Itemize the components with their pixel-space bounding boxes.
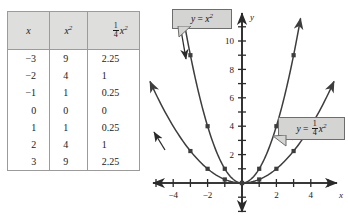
leader-line-quarter-left [154, 132, 165, 150]
callout2-numerator: 1 [312, 120, 318, 128]
callout2-exponent: 2 [323, 122, 327, 130]
callout1-tail [176, 26, 194, 38]
table-row: −110.25 [8, 84, 140, 101]
header-quarter-exponent: 2 [124, 24, 128, 32]
callout2-denominator: 4 [312, 128, 318, 137]
y-axis-tick-labels: 246810 [225, 36, 235, 160]
data-point [292, 53, 296, 57]
table-header: x x2 1 4 x2 [8, 12, 140, 50]
callout2-fraction: 1 4 [312, 120, 318, 137]
table-row: 241 [8, 136, 140, 153]
cell-quarter_x2: 0.25 [87, 119, 139, 136]
data-point [274, 167, 278, 171]
header-fraction-numerator: 1 [113, 22, 119, 30]
callout-leader-lines [154, 30, 293, 150]
table-row: 000 [8, 102, 140, 119]
header-x-label: x [26, 25, 30, 36]
y-axis-label: y [249, 12, 254, 22]
cell-x: −3 [8, 50, 50, 68]
y-tick-label: 8 [230, 65, 235, 75]
cell-x: 3 [8, 153, 50, 171]
values-table-container: x x2 1 4 x2 −392.25−241−110.25000110.252… [7, 11, 140, 171]
y-tick-label: 2 [230, 150, 235, 160]
curve-1-left-branch [150, 81, 242, 183]
column-header-x-squared: x2 [50, 12, 88, 50]
data-point [257, 177, 261, 181]
callout2-tail [272, 135, 288, 148]
cell-quarter_x2: 0 [87, 102, 139, 119]
cell-x2: 4 [50, 136, 88, 153]
curve-0-right-branch [242, 18, 301, 183]
callout1-lhs: y [191, 14, 195, 24]
callout2-lhs: y [296, 124, 300, 134]
x-tick-label: −4 [168, 190, 178, 200]
y-tick-label: 10 [225, 36, 235, 46]
data-point [223, 177, 227, 181]
cell-x: −2 [8, 67, 50, 84]
table-header-row: x x2 1 4 x2 [8, 12, 140, 50]
cell-quarter_x2: 2.25 [87, 153, 139, 171]
cell-x: 0 [8, 102, 50, 119]
cell-x2: 1 [50, 119, 88, 136]
x-axis-label: x [338, 190, 343, 200]
x-tick-label: 4 [309, 190, 314, 200]
figure-root: x x2 1 4 x2 −392.25−241−110.25000110.252… [0, 0, 348, 222]
values-table: x x2 1 4 x2 −392.25−241−110.25000110.252… [7, 11, 140, 171]
cell-quarter_x2: 1 [87, 136, 139, 153]
data-point [206, 124, 210, 128]
header-x2-exponent: 2 [69, 24, 73, 32]
x-axis-tick-labels: −4−224 [168, 190, 313, 200]
header-fraction: 1 4 [113, 22, 119, 39]
x-tick-label: 2 [274, 190, 279, 200]
data-point [292, 149, 296, 153]
callout-y-equals-quarter-x-squared: y = 1 4 x2 [278, 117, 345, 140]
cell-x2: 4 [50, 67, 88, 84]
data-point [257, 167, 261, 171]
column-header-quarter-x-squared: 1 4 x2 [87, 12, 139, 50]
data-point [188, 149, 192, 153]
y-tick-label: 6 [230, 93, 235, 103]
cell-x: 2 [8, 136, 50, 153]
table-row: 110.25 [8, 119, 140, 136]
callout1-equals: = [198, 14, 203, 24]
cell-x2: 9 [50, 50, 88, 68]
cell-quarter_x2: 2.25 [87, 50, 139, 68]
data-point [223, 167, 227, 171]
cell-x: −1 [8, 84, 50, 101]
y-tick-label: 4 [230, 121, 235, 131]
data-point [240, 181, 244, 185]
cell-x2: 0 [50, 102, 88, 119]
cell-x2: 1 [50, 84, 88, 101]
callout1-exponent: 2 [210, 12, 214, 20]
cell-quarter_x2: 0.25 [87, 84, 139, 101]
table-row: −241 [8, 67, 140, 84]
table-row: 392.25 [8, 153, 140, 171]
cell-x: 1 [8, 119, 50, 136]
callout2-equals: = [303, 124, 308, 134]
column-header-x: x [8, 12, 50, 50]
table-row: −392.25 [8, 50, 140, 68]
data-point [206, 167, 210, 171]
x-tick-label: −2 [203, 190, 213, 200]
table-body: −392.25−241−110.25000110.25241392.25 [8, 50, 140, 171]
header-fraction-denominator: 4 [113, 30, 119, 39]
data-point [188, 53, 192, 57]
cell-x2: 9 [50, 153, 88, 171]
cell-quarter_x2: 1 [87, 67, 139, 84]
